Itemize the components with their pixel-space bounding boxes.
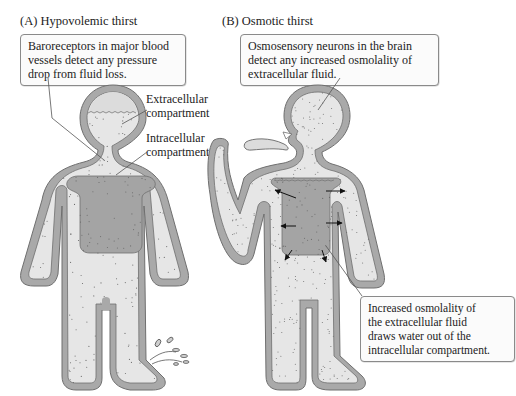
solute-dot — [320, 118, 321, 119]
solute-dot — [135, 294, 136, 295]
thirst-diagram — [0, 0, 516, 396]
solute-dot — [90, 237, 91, 238]
solute-dot — [133, 229, 134, 230]
solute-dot — [168, 272, 169, 273]
solute-dot — [139, 363, 140, 364]
solute-dot — [124, 333, 125, 334]
solute-dot — [80, 222, 81, 223]
solute-dot — [334, 375, 335, 376]
solute-dot — [131, 119, 132, 120]
solute-dot — [127, 184, 128, 185]
solute-dot — [304, 168, 305, 169]
solute-dot — [273, 245, 274, 246]
solute-dot — [82, 307, 83, 308]
solute-dot — [276, 358, 277, 359]
solute-dot — [125, 181, 126, 182]
solute-dot — [346, 191, 347, 192]
solute-dot — [95, 335, 96, 336]
solute-dot — [274, 260, 275, 261]
solute-dot — [99, 165, 100, 166]
solute-dot — [121, 126, 122, 127]
solute-dot — [77, 195, 78, 196]
solute-dot — [94, 287, 95, 288]
solute-dot — [275, 286, 276, 287]
solute-dot — [315, 174, 316, 175]
solute-dot — [322, 198, 323, 199]
solute-dot — [274, 305, 275, 306]
solute-dot — [310, 119, 311, 120]
solute-dot — [342, 375, 343, 376]
solute-dot — [319, 249, 320, 250]
solute-dot — [319, 100, 320, 101]
solute-dot — [97, 243, 98, 244]
solute-dot — [75, 356, 76, 357]
solute-dot — [272, 244, 273, 245]
solute-dot — [104, 160, 105, 161]
solute-dot — [93, 295, 94, 296]
solute-dot — [297, 263, 298, 264]
solute-dot — [308, 135, 309, 136]
solute-dot — [116, 278, 117, 279]
solute-dot — [117, 372, 118, 373]
solute-dot — [355, 258, 356, 259]
solute-dot — [310, 111, 311, 112]
solute-dot — [278, 234, 279, 235]
solute-dot — [331, 299, 332, 300]
solute-dot — [303, 117, 304, 118]
solute-dot — [295, 276, 296, 277]
solute-dot — [103, 255, 104, 256]
fluid-loss-spray-icon — [150, 336, 189, 365]
solute-dot — [70, 194, 71, 195]
solute-dot — [42, 235, 43, 236]
solute-dot — [294, 349, 295, 350]
solute-dot — [159, 257, 160, 258]
solute-dot — [128, 177, 129, 178]
solute-dot — [125, 282, 126, 283]
solute-dot — [70, 379, 71, 380]
solute-dot — [296, 217, 297, 218]
solute-dot — [270, 179, 271, 180]
solute-dot — [76, 329, 77, 330]
solute-dot — [374, 279, 375, 280]
solute-dot — [311, 148, 312, 149]
solute-dot — [331, 308, 332, 309]
solute-dot — [281, 332, 282, 333]
solute-dot — [322, 92, 323, 93]
solute-dot — [113, 256, 114, 257]
solute-dot — [283, 246, 284, 247]
solute-dot — [330, 276, 331, 277]
solute-dot — [104, 181, 105, 182]
solute-dot — [311, 239, 312, 240]
solute-dot — [331, 224, 332, 225]
solute-dot — [284, 319, 285, 320]
solute-dot — [273, 227, 274, 228]
solute-dot — [330, 219, 331, 220]
solute-dot — [158, 238, 159, 239]
solute-dot — [86, 367, 87, 368]
solute-dot — [275, 327, 276, 328]
solute-dot — [223, 154, 224, 155]
solute-dot — [356, 211, 357, 212]
solute-dot — [134, 224, 135, 225]
solute-dot — [89, 221, 90, 222]
body-b-intracellular — [271, 178, 341, 255]
solute-dot — [331, 216, 332, 217]
solute-dot — [279, 375, 280, 376]
solute-dot — [356, 232, 357, 233]
solute-dot — [352, 229, 353, 230]
solute-dot — [303, 281, 304, 282]
solute-dot — [318, 240, 319, 241]
solute-dot — [315, 105, 316, 106]
solute-dot — [325, 245, 326, 246]
solute-dot — [322, 371, 323, 372]
solute-dot — [125, 191, 126, 192]
solute-dot — [304, 269, 305, 270]
solute-dot — [279, 321, 280, 322]
solute-dot — [349, 212, 350, 213]
solute-dot — [89, 242, 90, 243]
solute-dot — [301, 204, 302, 205]
solute-dot — [128, 114, 129, 115]
solute-dot — [132, 265, 133, 266]
solute-dot — [43, 263, 44, 264]
solute-dot — [98, 182, 99, 183]
